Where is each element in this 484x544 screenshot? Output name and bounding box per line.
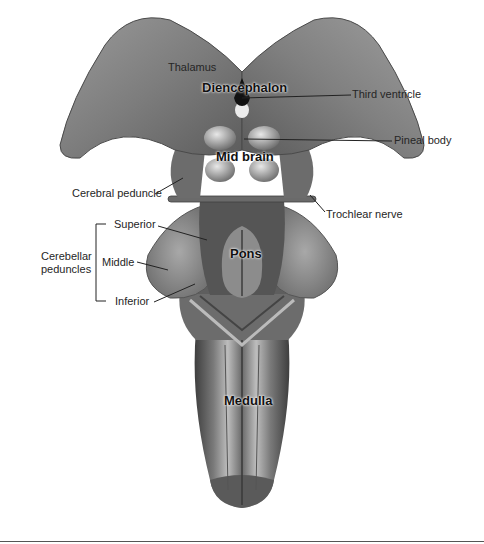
- midbrain-label: Mid brain: [216, 149, 274, 164]
- thalamus-label: Thalamus: [168, 61, 216, 74]
- trochlear-nerve-label: Trochlear nerve: [326, 208, 403, 221]
- cerebellar-peduncles-label-line1: Cerebellar: [41, 250, 92, 263]
- inferior-peduncle-label: Inferior: [115, 295, 149, 308]
- bottom-divider: [0, 541, 484, 542]
- pons-label: Pons: [230, 246, 262, 261]
- cerebral-peduncle-label: Cerebral peduncle: [72, 187, 162, 200]
- superior-peduncle-label: Superior: [114, 218, 156, 231]
- third-ventricle-label: Third ventricle: [352, 88, 421, 101]
- medulla-label: Medulla: [224, 393, 272, 408]
- cerebellar-peduncles-label-line2: peduncles: [41, 263, 91, 276]
- diencephalon-label: Diencephalon: [202, 80, 287, 95]
- pineal-body-label: Pineal body: [394, 134, 452, 147]
- middle-peduncle-label: Middle: [102, 256, 134, 269]
